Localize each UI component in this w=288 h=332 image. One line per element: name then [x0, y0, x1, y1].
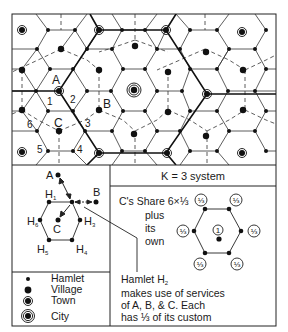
village-boundaries: [12, 14, 276, 165]
town-boundaries: [12, 14, 276, 165]
hamlet-label-1: 1: [47, 96, 53, 107]
detail-label-h1: H1: [45, 188, 57, 201]
share-fraction: ⅓: [180, 227, 187, 236]
hamlet-label-5: 5: [37, 144, 43, 155]
detail-label-h4: H4: [76, 243, 88, 256]
hamlet-label-2: 2: [70, 94, 76, 105]
share-text: C's Share 6×⅓ plus its own: [119, 195, 189, 247]
share-line-1: C's Share 6×⅓: [119, 195, 189, 207]
detail-label-c: C: [53, 223, 61, 235]
detail-label-h5: H5: [37, 243, 49, 256]
detail-label-b: B: [93, 186, 100, 198]
map-label-b: B: [103, 97, 111, 111]
hamlet-label-6: 6: [27, 119, 33, 130]
detail-label-h3: H3: [84, 215, 96, 228]
hamlet-note-line-3: of A, B, & C. Each: [121, 299, 205, 311]
hamlets: [34, 28, 268, 153]
hamlet-note-line-1: Hamlet H2: [121, 273, 169, 286]
share-fraction: ⅓: [233, 196, 240, 205]
share-line-4: own: [145, 235, 164, 247]
legend-city: City: [51, 310, 70, 322]
legend: Hamlet Village Town City: [22, 272, 85, 323]
share-own-value: 1: [216, 226, 221, 235]
share-line-2: plus: [145, 209, 164, 221]
detail-label-h6: H6: [27, 215, 39, 228]
share-fraction: ⅓: [234, 260, 241, 269]
hamlet-note: Hamlet H2 makes use of services of A, B,…: [121, 273, 225, 323]
city: [127, 83, 141, 97]
share-fraction: ⅓: [198, 196, 205, 205]
legend-town: Town: [51, 294, 76, 306]
map-label-a: A: [52, 73, 60, 87]
hamlet-label-4: 4: [77, 144, 83, 155]
share-fraction: ⅓: [251, 227, 258, 236]
central-place-diagram: A B C 1 2 3 4 5 6 K = 3 system: [0, 0, 288, 332]
city-symbol-icon: [22, 310, 35, 323]
share-diagram: ⅓ ⅓ ⅓ ⅓ ⅓ ⅓ 1: [177, 194, 260, 270]
village-symbol-icon: [25, 287, 32, 294]
hamlet-note-line-2: makes use of services: [121, 287, 225, 299]
system-title: K = 3 system: [161, 170, 225, 182]
town-symbol-icon: [24, 297, 33, 306]
hamlet-symbol-icon: [26, 277, 30, 281]
map-label-c: C: [54, 116, 63, 130]
hexagonal-map: [12, 14, 276, 165]
detail-label-a: A: [46, 169, 54, 181]
hamlet-label-3: 3: [85, 118, 91, 129]
share-fraction: ⅓: [197, 260, 204, 269]
hamlet-note-line-4: has ⅓ of its custom: [121, 311, 212, 323]
hamlet-hex-grid: [12, 14, 276, 165]
share-line-3: its: [145, 222, 156, 234]
